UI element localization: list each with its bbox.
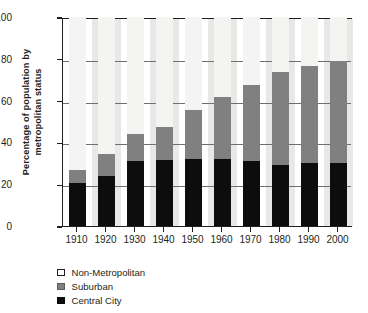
bar-segment-suburban [69, 170, 86, 184]
legend-item-central-city[interactable]: Central City [57, 294, 145, 307]
x-tick-mark-1960 [221, 227, 222, 232]
chart-legend: Non-MetropolitanSuburbanCentral City [57, 266, 145, 308]
bar-segment-non-metropolitan [214, 17, 231, 97]
bar-1920 [98, 17, 115, 226]
y-tick-label-100: 100 [0, 13, 12, 23]
bar-segment-central-city [330, 163, 347, 226]
bar-segment-suburban [301, 66, 318, 163]
y-tick-label-80: 80 [0, 55, 12, 65]
bar-1910 [69, 17, 86, 226]
legend-item-non-metropolitan[interactable]: Non-Metropolitan [57, 266, 145, 279]
x-tick-mark-1910 [76, 227, 77, 232]
bar-1960 [214, 17, 231, 226]
bar-segment-central-city [156, 160, 173, 226]
bar-segment-suburban [214, 97, 231, 159]
plot-inner [63, 19, 351, 226]
bar-segment-non-metropolitan [156, 17, 173, 127]
bar-segment-central-city [301, 163, 318, 226]
bar-1990 [301, 17, 318, 226]
bar-1980 [272, 17, 289, 226]
y-tick-label-40: 40 [0, 138, 12, 148]
x-tick-mark-1980 [279, 227, 280, 232]
x-tick-mark-1990 [308, 227, 309, 232]
bar-segment-central-city [214, 159, 231, 226]
y-tick-label-0: 0 [0, 222, 12, 232]
bar-segment-non-metropolitan [243, 17, 260, 85]
bar-1930 [127, 17, 144, 226]
bar-1940 [156, 17, 173, 226]
bar-segment-central-city [69, 183, 86, 226]
bar-segment-non-metropolitan [272, 17, 289, 72]
x-tick-mark-1930 [134, 227, 135, 232]
bar-segment-non-metropolitan [69, 17, 86, 170]
legend-swatch-icon [57, 283, 65, 291]
bar-segment-non-metropolitan [301, 17, 318, 66]
chart-root: Percentage of population by metropolitan… [0, 0, 368, 313]
bar-segment-non-metropolitan [98, 17, 115, 154]
bar-segment-central-city [127, 161, 144, 226]
bar-segment-suburban [243, 85, 260, 161]
bar-segment-suburban [98, 154, 115, 176]
bar-segment-suburban [330, 61, 347, 163]
x-tick-mark-2000 [337, 227, 338, 232]
x-tick-mark-1920 [105, 227, 106, 232]
bar-segment-non-metropolitan [127, 17, 144, 134]
y-axis-title-line-2: metropolitan status [32, 2, 44, 222]
bar-1950 [185, 17, 202, 226]
legend-item-label: Non-Metropolitan [72, 268, 146, 278]
x-tick-mark-1950 [192, 227, 193, 232]
bar-segment-suburban [127, 134, 144, 161]
legend-swatch-icon [57, 269, 65, 277]
bar-1970 [243, 17, 260, 226]
x-tick-mark-1940 [163, 227, 164, 232]
bar-segment-non-metropolitan [185, 17, 202, 110]
bar-segment-suburban [156, 127, 173, 160]
bar-2000 [330, 17, 347, 226]
plot-area [62, 18, 352, 227]
bar-segment-central-city [272, 165, 289, 226]
legend-swatch-icon [57, 297, 65, 305]
y-axis-title-line-1: Percentage of population by [20, 2, 32, 222]
x-tick-label-2000: 2000 [318, 234, 358, 245]
bar-segment-suburban [185, 110, 202, 159]
y-axis-title: Percentage of population by metropolitan… [20, 2, 44, 222]
legend-item-label: Central City [72, 296, 122, 306]
bar-segment-central-city [185, 159, 202, 226]
bar-segment-central-city [98, 176, 115, 226]
bar-segment-non-metropolitan [330, 17, 347, 61]
bar-segment-suburban [272, 72, 289, 165]
legend-item-suburban[interactable]: Suburban [57, 280, 145, 293]
legend-item-label: Suburban [72, 282, 114, 292]
bar-segment-central-city [243, 161, 260, 226]
y-tick-label-20: 20 [0, 180, 12, 190]
x-tick-mark-1970 [250, 227, 251, 232]
y-tick-label-60: 60 [0, 97, 12, 107]
